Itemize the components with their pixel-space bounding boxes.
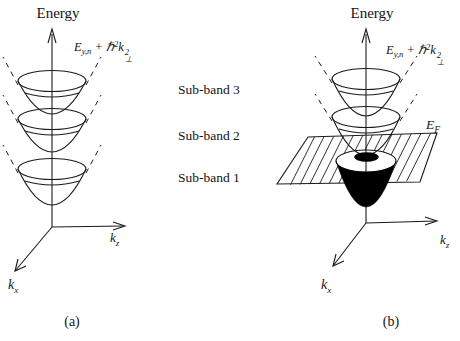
kx-axis-b — [333, 223, 366, 266]
energy-axis-label-b: Energy — [344, 5, 400, 22]
kz-axis-label-a: kz — [110, 230, 119, 248]
dispersion-label-a: Ey,n + ℏ2k2⊥ — [74, 39, 132, 62]
fermi-level-label: EF — [426, 117, 440, 135]
kz-axis-a — [52, 226, 124, 227]
caption-b: (b) — [375, 314, 407, 330]
subband2-filled-bottom — [355, 153, 379, 162]
dispersion-label-b: Ey,n + ℏ2k2⊥ — [386, 42, 444, 65]
kz-axis-label-b: kz — [440, 232, 449, 250]
kz-axis-b — [366, 221, 436, 223]
subband2-label: Sub-band 2 — [178, 128, 240, 144]
energy-axis-label-a: Energy — [30, 5, 86, 22]
panel-a — [3, 29, 125, 271]
kx-axis-a — [15, 227, 52, 271]
caption-a: (a) — [56, 314, 88, 330]
subband3-label: Sub-band 3 — [178, 82, 240, 98]
subband1-label: Sub-band 1 — [178, 170, 240, 186]
kx-axis-label-b: kx — [321, 277, 331, 295]
figure-subband-dispersion: Energy Energy Ey,n + ℏ2k2⊥ Ey,n + ℏ2k2⊥ … — [0, 0, 460, 341]
kx-axis-label-a: kx — [8, 277, 18, 295]
